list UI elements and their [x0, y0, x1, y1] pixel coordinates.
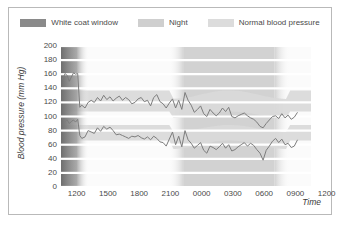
plot-area: 200180160140120100806040200 120015001800… — [61, 46, 311, 187]
plot-canvas — [61, 46, 311, 187]
legend-label-normal-blood-pressure: Normal blood pressure — [239, 19, 320, 27]
y-tick-100: 100 — [17, 113, 57, 121]
x-tick-2100-3: 2100 — [161, 190, 179, 198]
chart-legend: White coat window Night Normal blood pre… — [9, 16, 331, 30]
x-axis-title: Time — [302, 197, 321, 207]
legend-item-white-coat-window: White coat window — [20, 19, 118, 27]
figure-frame: White coat window Night Normal blood pre… — [8, 7, 332, 215]
y-tick-40: 40 — [17, 155, 57, 163]
legend-label-night: Night — [169, 19, 188, 27]
x-tick-0600-6: 0600 — [255, 190, 273, 198]
y-tick-0: 0 — [17, 183, 57, 191]
x-tick-0900-7: 0900 — [286, 190, 304, 198]
legend-item-normal-blood-pressure: Normal blood pressure — [208, 19, 320, 27]
x-tick-1800-2: 1800 — [130, 190, 148, 198]
legend-swatch-white-coat-window — [20, 19, 46, 27]
x-tick-1500-1: 1500 — [99, 190, 117, 198]
x-tick-1200-0: 1200 — [68, 190, 86, 198]
y-tick-140: 140 — [17, 84, 57, 92]
y-tick-20: 20 — [17, 169, 57, 177]
legend-swatch-normal-blood-pressure — [208, 19, 234, 27]
y-tick-120: 120 — [17, 98, 57, 106]
y-tick-200: 200 — [17, 42, 57, 50]
chart-svg — [61, 46, 311, 187]
x-tick-0300-5: 0300 — [224, 190, 242, 198]
y-tick-80: 80 — [17, 127, 57, 135]
y-tick-160: 160 — [17, 70, 57, 78]
legend-item-night: Night — [138, 19, 188, 27]
y-tick-180: 180 — [17, 56, 57, 64]
y-tick-60: 60 — [17, 141, 57, 149]
legend-swatch-night — [138, 19, 164, 27]
x-tick-1200-8: 1200 — [318, 190, 336, 198]
legend-label-white-coat-window: White coat window — [51, 19, 118, 27]
x-tick-0000-4: 0000 — [193, 190, 211, 198]
